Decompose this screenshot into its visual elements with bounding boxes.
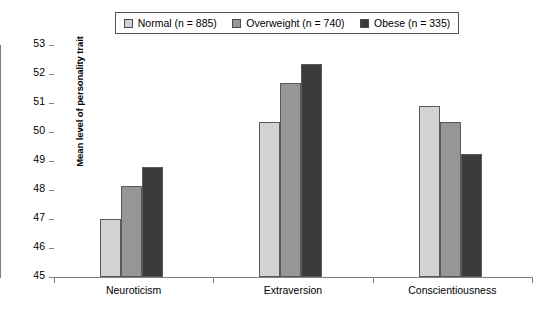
x-axis-tick-mark [54,277,55,283]
chart-legend: Normal (n = 885)Overweight (n = 740)Obes… [115,12,459,34]
legend-swatch-overweight [232,19,241,28]
y-axis-tick-label: 52 [33,67,45,78]
legend-entry[interactable]: Normal (n = 885) [124,18,217,29]
y-axis-tick-label: 53 [33,38,45,49]
plot-area [54,45,532,277]
x-axis-tick-mark [373,277,374,283]
y-axis-tick-label: 46 [33,241,45,252]
bar [121,186,142,277]
bar [419,106,440,277]
x-axis-tick-mark [213,277,214,283]
x-axis-tick-label: Extraversion [213,285,372,296]
legend-swatch-normal [124,19,133,28]
bar [280,83,301,277]
bar-chart-figure: Normal (n = 885)Overweight (n = 740)Obes… [0,0,543,310]
legend-entry[interactable]: Obese (n = 335) [360,18,450,29]
legend-entry[interactable]: Overweight (n = 740) [232,18,344,29]
legend-entry-label: Overweight (n = 740) [246,18,344,29]
y-axis-tick-label: 47 [33,212,45,223]
bar [142,167,163,277]
x-axis-tick-mark [532,277,533,283]
x-axis-line [54,277,532,278]
bar [440,122,461,277]
y-axis-tick-label: 51 [33,96,45,107]
y-axis-tick-label: 48 [33,183,45,194]
bar [301,64,322,277]
bar [461,154,482,277]
y-axis-tick-label: 50 [33,125,45,136]
y-axis-line [0,45,1,278]
bar [259,122,280,277]
legend-entry-label: Normal (n = 885) [138,18,217,29]
bar [100,219,121,277]
x-axis-tick-label: Conscientiousness [373,285,532,296]
legend-entry-label: Obese (n = 335) [374,18,450,29]
legend-swatch-obese [360,19,369,28]
y-axis-tick-label: 45 [33,270,45,281]
x-axis-tick-label: Neuroticism [54,285,213,296]
y-axis-tick-label: 49 [33,154,45,165]
